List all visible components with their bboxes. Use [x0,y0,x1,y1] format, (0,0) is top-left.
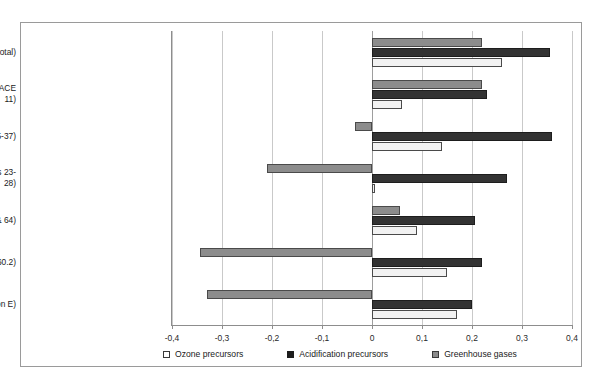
category-axis-label: Other land transport (NACE Group 60.2) [0,257,16,268]
bar-ozone-precursors [372,310,457,319]
legend-item-acidification-precursors[interactable]: Acidification precursors [287,349,388,359]
x-axis-tick-label: 0,4 [566,333,578,343]
x-axis-tick-label: -0,2 [265,333,280,343]
legend-item-label: Ozone precursors [175,349,243,359]
x-axis-tick-label: 0,3 [516,333,528,343]
legend-item-ozone-precursors[interactable]: Ozone precursors [163,349,243,359]
category-axis-label: Norw ay (total) [0,47,16,58]
chart-category-row: Manufacturing (NACE Divisions 15-37) [172,115,572,157]
bar-greenhouse-gases [372,38,482,47]
bar-acidification-precursors [372,300,472,309]
x-axis-tick-label: -0,1 [315,333,330,343]
x-axis-tick-label: 0,1 [416,333,428,343]
x-axis-tick [322,325,323,329]
chart-category-row: Extraction of crude petroleum and natura… [172,73,572,115]
x-axis-tick [472,325,473,329]
x-axis-tick [222,325,223,329]
bar-ozone-precursors [372,100,402,109]
chart-category-row: Electricity, gas and w ater supply (Sect… [172,283,572,325]
legend-swatch-icon [287,351,294,358]
x-axis-tick [172,325,173,329]
bar-acidification-precursors [372,258,482,267]
bar-ozone-precursors [372,184,375,193]
x-axis-tick-label: 0,2 [466,333,478,343]
bar-greenhouse-gases [372,206,400,215]
chart-category-row: Norw ay (total) [172,31,572,73]
bar-ozone-precursors [372,268,447,277]
x-axis-tick-label: -0,3 [215,333,230,343]
x-axis-tick [422,325,423,329]
bar-greenhouse-gases [355,122,373,131]
bar-greenhouse-gases [372,80,482,89]
chart-category-row: Metals and chemical industries (NACE Div… [172,157,572,199]
legend-item-greenhouse-gases[interactable]: Greenhouse gases [432,349,517,359]
bar-acidification-precursors [372,174,507,183]
bar-acidification-precursors [372,48,550,57]
gridline [572,31,573,325]
plot-area: -0,4-0,3-0,2-0,100,10,20,30,4Norw ay (to… [171,31,572,326]
category-axis-label: Metals and chemical industries (NACE Div… [0,167,16,189]
x-axis-tick [372,325,373,329]
bar-greenhouse-gases [207,290,372,299]
category-axis-label: Transport (Section I excluding division … [0,215,16,226]
chart-legend: Ozone precursorsAcidification precursors… [163,349,517,359]
legend-swatch-icon [432,351,439,358]
legend-item-label: Acidification precursors [299,349,388,359]
bar-ozone-precursors [372,226,417,235]
bar-ozone-precursors [372,58,502,67]
bar-greenhouse-gases [267,164,372,173]
x-axis-tick [272,325,273,329]
bar-acidification-precursors [372,132,552,141]
category-axis-label: Electricity, gas and w ater supply (Sect… [0,299,16,310]
chart-category-row: Transport (Section I excluding division … [172,199,572,241]
bar-ozone-precursors [372,142,442,151]
x-axis-tick [572,325,573,329]
x-axis-tick [522,325,523,329]
chart-frame: -0,4-0,3-0,2-0,100,10,20,30,4Norw ay (to… [20,22,582,367]
category-axis-label: Extraction of crude petroleum and natura… [0,83,16,105]
chart-category-row: Other land transport (NACE Group 60.2) [172,241,572,283]
legend-item-label: Greenhouse gases [444,349,517,359]
bar-acidification-precursors [372,216,475,225]
category-axis-label: Manufacturing (NACE Divisions 15-37) [0,131,16,142]
legend-swatch-icon [163,351,170,358]
bar-acidification-precursors [372,90,487,99]
bar-greenhouse-gases [200,248,373,257]
x-axis-tick-label: -0,4 [165,333,180,343]
x-axis-tick-label: 0 [370,333,375,343]
